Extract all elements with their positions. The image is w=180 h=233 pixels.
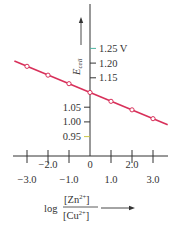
data-point-marker	[67, 82, 71, 86]
y-tick-label: 1.20	[99, 58, 117, 69]
y-tick-label: 1.00	[63, 116, 81, 127]
y-axis-arrow-icon	[79, 17, 83, 45]
y-tick-label: 1.05	[63, 102, 81, 113]
data-point-marker	[25, 64, 29, 68]
data-series	[14, 61, 167, 125]
data-point-marker	[130, 108, 134, 112]
x-tick-label: 3.0	[146, 174, 159, 185]
y-tick-label: 1.15	[99, 72, 117, 83]
data-point-marker	[88, 90, 92, 94]
x-tick-label: 0	[87, 159, 92, 170]
x-axis-arrow-icon	[101, 206, 135, 210]
x-tick-label: −3.0	[17, 174, 36, 185]
x-tick-label: 1.0	[104, 174, 117, 185]
data-point-marker	[151, 117, 155, 121]
x-axis-denominator: [Cu2+]	[63, 209, 89, 221]
x-tick-label: −1.0	[59, 174, 78, 185]
y-tick-label: 0.95	[63, 131, 81, 142]
y-axis-title-sub: cell	[76, 58, 84, 68]
axes	[13, 4, 168, 156]
data-point-marker	[46, 73, 50, 77]
y-axis-title: Ecell	[71, 58, 84, 76]
tick-marks: −3.0−2.0−1.001.02.03.01.25 V1.201.151.05…	[17, 43, 159, 185]
x-axis-log-label: log	[44, 203, 58, 214]
data-point-marker	[109, 99, 113, 103]
svg-text:Ecell: Ecell	[71, 58, 84, 76]
x-axis-numerator: [Zn2+]	[64, 193, 90, 205]
x-tick-label: 2.0	[125, 159, 138, 170]
nernst-plot: −3.0−2.0−1.001.02.03.01.25 V1.201.151.05…	[0, 0, 180, 233]
x-tick-label: −2.0	[38, 159, 57, 170]
y-tick-label: 1.25 V	[99, 43, 128, 54]
